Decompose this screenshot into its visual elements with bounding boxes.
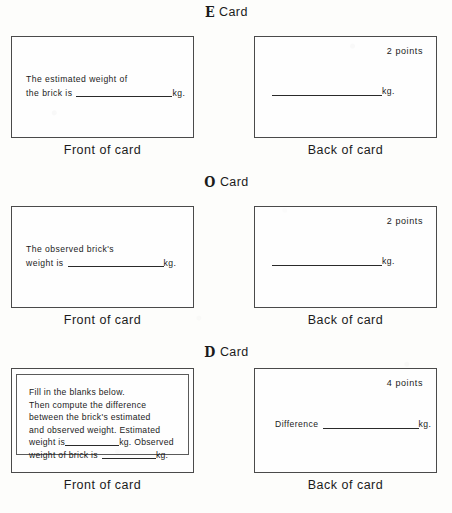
card-front-d[interactable]: Fill in the blanks below. Then compute t… [11, 368, 194, 473]
card-front-d-line2: Then compute the difference [29, 399, 174, 412]
document-sheet: ECard The estimated weight of the brick … [0, 0, 452, 513]
card-front-o-line2-prefix: weight is [26, 258, 64, 268]
card-front-d-line6-prefix: weight of brick is [29, 450, 98, 460]
caption-back-o: Back of card [254, 313, 437, 327]
card-front-e-line1: The estimated weight of [26, 73, 185, 87]
section-label-o: Card [220, 175, 249, 189]
card-front-d-line4: and observed weight. Estimated [29, 424, 174, 437]
caption-back-e: Back of card [254, 143, 437, 157]
card-front-e-text: The estimated weight of the brick iskg. [26, 73, 185, 100]
blank-field[interactable] [323, 421, 419, 429]
caption-back-d: Back of card [254, 478, 437, 492]
points-badge-o: 2 points [387, 216, 423, 226]
card-front-d-inner-panel: Fill in the blanks below. Then compute t… [16, 374, 189, 455]
card-front-e[interactable]: The estimated weight of the brick iskg. [11, 36, 194, 138]
card-front-o-line1: The observed brick's [26, 243, 176, 257]
points-badge-d: 4 points [387, 378, 423, 388]
card-front-e-unit: kg. [172, 88, 185, 98]
caption-front-d: Front of card [11, 478, 194, 492]
blank-field[interactable] [68, 258, 164, 266]
section-letter-d-icon: D [205, 342, 216, 361]
card-back-o[interactable]: 2 points kg. [254, 206, 437, 308]
card-front-o-unit: kg. [164, 258, 177, 268]
card-back-o-unit: kg. [382, 256, 395, 266]
card-front-o-text: The observed brick's weight iskg. [26, 243, 176, 270]
card-back-d-label: Difference [275, 419, 319, 429]
section-letter-o-icon: O [205, 172, 216, 191]
card-front-d-line6-suffix: kg. [156, 450, 168, 460]
caption-front-e: Front of card [11, 143, 194, 157]
card-front-e-line2-prefix: the brick is [26, 88, 72, 98]
blank-field[interactable] [102, 451, 156, 459]
card-front-o-line2: weight iskg. [26, 257, 176, 271]
caption-front-o: Front of card [11, 313, 194, 327]
card-front-d-line5: weight iskg. Observed [29, 436, 174, 449]
card-front-d-line5-prefix: weight is [29, 437, 65, 447]
card-back-d-answer-row: Differencekg. [275, 419, 431, 429]
card-section-o: OCard The observed brick's weight iskg. … [0, 170, 452, 340]
card-section-d: DCard Fill in the blanks below. Then com… [0, 340, 452, 513]
card-front-d-line1: Fill in the blanks below. [29, 386, 174, 399]
card-front-e-line2: the brick iskg. [26, 87, 185, 101]
card-front-d-line5-mid: kg. Observed [119, 437, 174, 447]
blank-field[interactable] [272, 258, 382, 266]
card-back-d[interactable]: 4 points Differencekg. [254, 368, 437, 473]
section-title-d: DCard [0, 342, 452, 361]
card-front-d-line6: weight of brick iskg. [29, 449, 174, 462]
section-letter-e-icon: E [205, 2, 215, 21]
card-back-d-unit: kg. [419, 419, 432, 429]
blank-field[interactable] [76, 88, 172, 96]
card-front-d-line3: between the brick's estimated [29, 411, 174, 424]
section-title-o: OCard [0, 172, 452, 191]
section-title-e: ECard [0, 2, 452, 21]
card-back-o-answer-row: kg. [272, 256, 395, 266]
points-badge-e: 2 points [387, 46, 423, 56]
section-label-e: Card [219, 5, 248, 19]
card-front-o[interactable]: The observed brick's weight iskg. [11, 206, 194, 308]
blank-field[interactable] [65, 438, 119, 446]
card-back-e-unit: kg. [382, 86, 395, 96]
card-back-e[interactable]: 2 points kg. [254, 36, 437, 138]
card-front-d-text: Fill in the blanks below. Then compute t… [29, 386, 174, 462]
card-section-e: ECard The estimated weight of the brick … [0, 0, 452, 170]
section-label-d: Card [220, 345, 249, 359]
card-back-e-answer-row: kg. [272, 86, 395, 96]
blank-field[interactable] [272, 88, 382, 96]
